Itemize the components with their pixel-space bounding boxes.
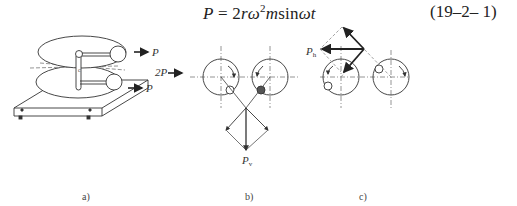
panel-b-rotors — [168, 46, 300, 150]
panel-c-resultant-label: Ph — [305, 45, 317, 59]
panel-b-resultant-label: Pv — [241, 154, 253, 168]
panel-c-rotors — [320, 27, 410, 108]
figure-diagram: P P c 2P Pv — [0, 0, 517, 206]
caption-c: c) — [359, 191, 367, 203]
panel-a-apparatus — [14, 36, 148, 119]
panel-a-center-mark: c — [78, 67, 81, 73]
panel-a-bottom-force-label: P — [145, 82, 153, 94]
caption-a: a) — [82, 191, 90, 203]
panel-a-top-force-label: P — [151, 46, 159, 58]
caption-b: b) — [245, 191, 253, 203]
panel-b-input-force-label: 2P — [155, 66, 168, 78]
